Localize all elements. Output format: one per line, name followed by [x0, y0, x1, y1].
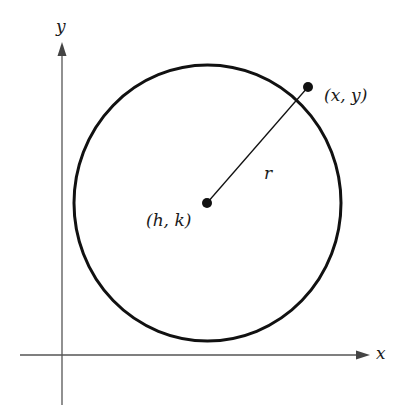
point-label: (x, y) — [324, 85, 367, 105]
center-point — [202, 198, 212, 208]
circle-point — [303, 82, 313, 92]
diagram-graphic — [0, 0, 409, 419]
radius-label: r — [264, 163, 272, 183]
x-axis-label: x — [376, 343, 386, 363]
center-label: (h, k) — [146, 210, 191, 230]
y-axis-label: y — [56, 16, 66, 36]
x-axis-arrow-icon — [356, 351, 370, 360]
circle-diagram: y x (x, y) r (h, k) — [0, 0, 409, 419]
y-axis-arrow-icon — [58, 42, 67, 56]
radius-line — [207, 87, 308, 203]
